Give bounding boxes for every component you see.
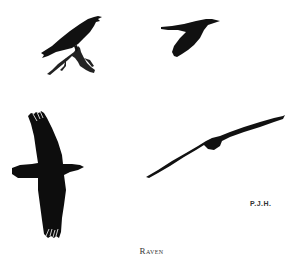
gliding-raven-front-figure — [0, 0, 303, 268]
plate-caption: Raven — [0, 246, 303, 256]
artist-signature: P.J.H. — [250, 200, 272, 207]
illustration-plate: P.J.H. Raven — [0, 0, 303, 268]
